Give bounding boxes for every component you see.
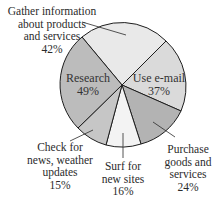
label-text: and services	[2, 30, 102, 43]
label-text: about products	[2, 18, 102, 31]
label-gather-info: Gather information about products and se…	[2, 5, 102, 55]
label-percent: 15%	[24, 179, 96, 192]
label-percent: 49%	[62, 85, 114, 98]
label-text: Gather information	[2, 5, 102, 18]
label-use-email: Use e-mail 37%	[132, 72, 186, 98]
label-text: Purchase	[160, 143, 215, 156]
label-percent: 16%	[97, 185, 149, 198]
label-text: new sites	[97, 173, 149, 186]
label-percent: 42%	[2, 43, 102, 56]
label-text: Check for	[24, 141, 96, 154]
label-text: news, weather	[24, 154, 96, 167]
label-text: updates	[24, 166, 96, 179]
label-purchase: Purchase goods and services 24%	[160, 143, 215, 193]
label-text: services	[160, 168, 215, 181]
label-percent: 24%	[160, 181, 215, 194]
label-text: goods and	[160, 156, 215, 169]
label-text: Surf for	[97, 160, 149, 173]
label-check-news: Check for news, weather updates 15%	[24, 141, 96, 191]
label-percent: 37%	[132, 85, 186, 98]
label-surf: Surf for new sites 16%	[97, 160, 149, 198]
label-research: Research 49%	[62, 72, 114, 98]
